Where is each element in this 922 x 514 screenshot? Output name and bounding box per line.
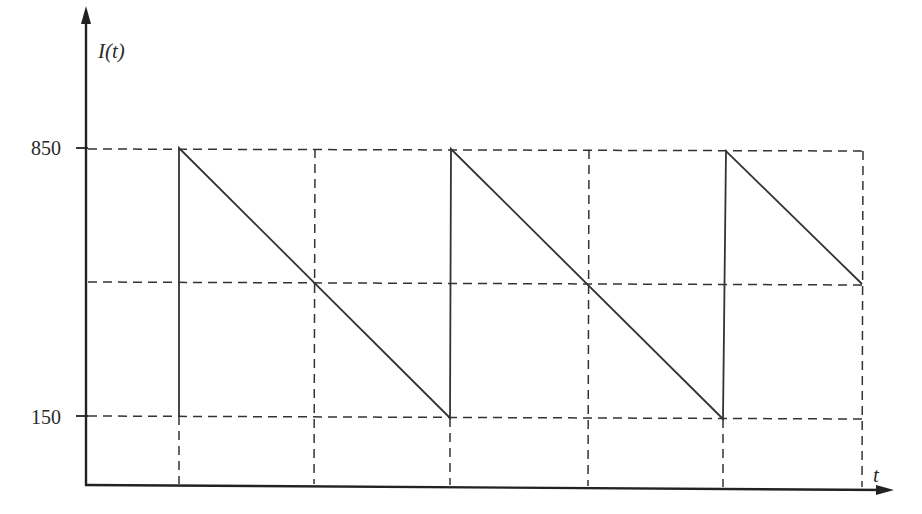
grid-v-2 bbox=[314, 149, 315, 484]
x-axis bbox=[85, 485, 886, 490]
grid-lines bbox=[88, 149, 863, 487]
series-inventory-level bbox=[179, 148, 862, 419]
grid-h-850 bbox=[88, 149, 862, 151]
y-tick-label-850: 850 bbox=[31, 137, 61, 159]
grid-h-150 bbox=[88, 416, 862, 419]
y-tick-label-150: 150 bbox=[31, 406, 61, 428]
axes bbox=[76, 6, 894, 495]
y-axis-label: I(t) bbox=[97, 39, 125, 63]
inventory-sawtooth-chart: 850 150 I(t) t bbox=[0, 0, 922, 514]
y-axis-arrow-icon bbox=[81, 6, 91, 24]
grid-v-6 bbox=[862, 151, 863, 487]
x-axis-label: t bbox=[873, 463, 880, 487]
grid-h-mid bbox=[88, 282, 862, 285]
grid-v-4 bbox=[588, 150, 589, 486]
